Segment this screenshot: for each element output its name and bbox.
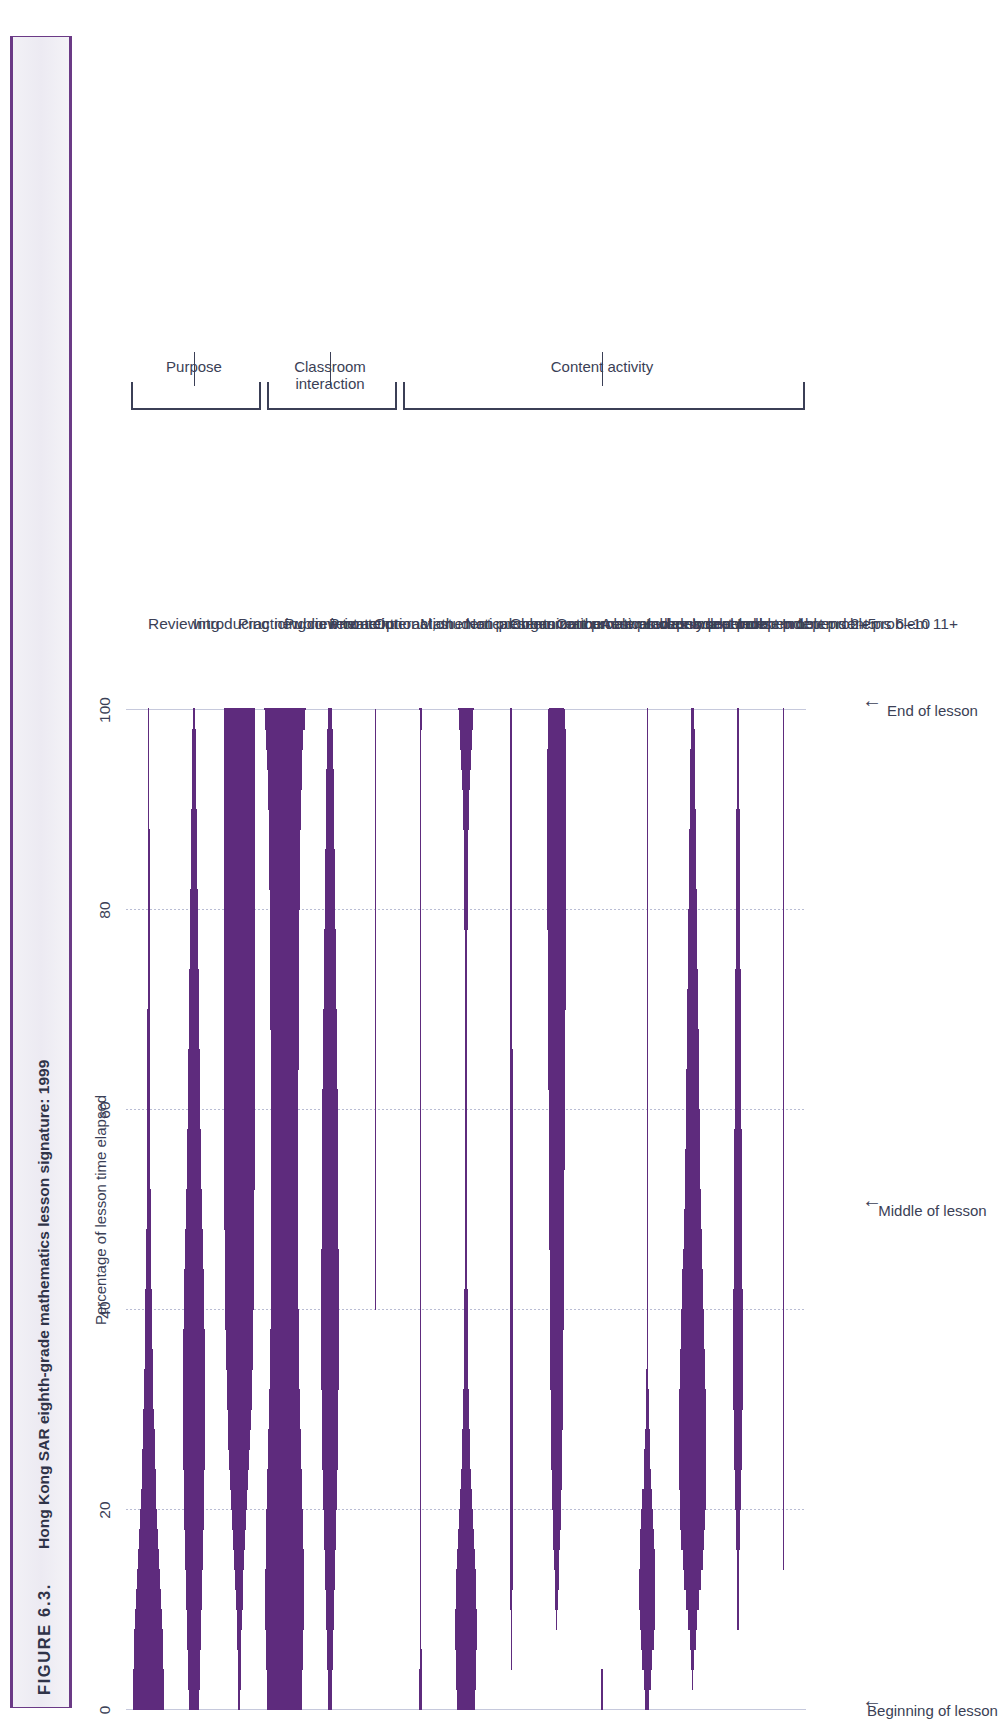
signature-segment: [686, 1109, 700, 1130]
signature-segment: [326, 769, 333, 790]
signature-segment: [187, 1629, 200, 1650]
signature-segment: [224, 789, 256, 810]
signature-segment: [228, 1409, 251, 1430]
signature-segment: [187, 1149, 201, 1170]
signature-segment: [783, 709, 784, 730]
signature-segment: [148, 989, 150, 1010]
signature-segment: [465, 969, 468, 990]
signature-segment: [270, 889, 300, 910]
signature-segment: [375, 849, 376, 870]
signature-segment: [224, 1009, 255, 1030]
signature-segment: [510, 929, 512, 950]
signature-segment: [464, 889, 467, 910]
signature-segment: [687, 989, 698, 1010]
signature-segment: [326, 789, 334, 810]
signature-segment: [455, 1609, 476, 1630]
signature-segment: [322, 1409, 338, 1430]
signature-segment: [420, 949, 421, 970]
signature-segment: [464, 849, 468, 870]
signature-segment: [510, 1229, 513, 1250]
signature-segment: [691, 1649, 694, 1670]
signature-segment: [510, 809, 512, 830]
signature-segment: [647, 1149, 648, 1170]
signature-segment: [735, 1009, 741, 1030]
signature-segment: [689, 889, 697, 910]
signature-segment: [647, 1289, 648, 1310]
signature-segment: [269, 849, 300, 870]
chart-panel: Percentage of lesson time elapsed 020406…: [92, 30, 998, 1710]
signature-segment: [737, 1569, 739, 1590]
signature-segment: [145, 1349, 153, 1370]
signature-segment: [184, 1289, 204, 1310]
signature-segment: [510, 1169, 513, 1190]
signature-segment: [375, 989, 376, 1010]
signature-segment: [601, 1669, 602, 1690]
signature-segment: [736, 809, 739, 830]
signature-segment: [224, 989, 255, 1010]
signature-segment: [420, 1509, 421, 1530]
signature-segment: [690, 809, 696, 830]
signature-segment: [644, 1449, 650, 1470]
signature-segment: [148, 949, 150, 970]
signature-segment: [462, 769, 470, 790]
signature-segment: [647, 729, 648, 750]
signature-segment: [783, 1009, 785, 1030]
signature-segment: [463, 809, 469, 830]
signature-segment: [270, 1009, 298, 1030]
signature-row: [762, 710, 804, 1710]
signature-segment: [647, 1209, 648, 1230]
signature-segment: [420, 1089, 421, 1110]
signature-segment: [456, 1569, 476, 1590]
signature-segment: [687, 1009, 698, 1030]
signature-segment: [148, 969, 150, 990]
signature-segment: [510, 909, 512, 930]
signature-segment: [224, 889, 256, 910]
signature-segment: [510, 869, 512, 890]
signature-segment: [549, 1209, 564, 1230]
signature-segment: [322, 1449, 337, 1470]
signature-segment: [375, 889, 376, 910]
signature-segment: [270, 989, 298, 1010]
signature-segment: [224, 1049, 255, 1070]
signature-segment: [322, 1429, 338, 1450]
signature-segment: [684, 1569, 701, 1590]
axis-tick-40: 40: [96, 1301, 114, 1318]
signature-segment: [224, 709, 256, 730]
signature-segment: [510, 1509, 513, 1530]
signature-segment: [323, 1069, 338, 1090]
signature-segment: [736, 909, 740, 930]
signature-segment: [510, 1249, 513, 1270]
signature-segment: [185, 1229, 202, 1250]
signature-segment: [324, 989, 337, 1010]
signature-segment: [735, 1049, 741, 1070]
signature-segment: [783, 1129, 785, 1150]
signature-segment: [783, 849, 784, 870]
signature-segment: [737, 1589, 738, 1610]
signature-segment: [147, 1129, 150, 1150]
signature-segment: [783, 1249, 785, 1270]
signature-segment: [455, 1629, 476, 1650]
signature-segment: [187, 1609, 201, 1630]
signature-segment: [549, 1229, 564, 1250]
signature-segment: [192, 729, 195, 750]
signature-segment: [231, 1489, 247, 1510]
signature-segment: [647, 889, 648, 910]
signature-segment: [148, 929, 150, 950]
signature-segment: [148, 789, 150, 810]
signature-segment: [227, 1369, 252, 1390]
signature-segment: [550, 1309, 564, 1330]
signature-segment: [647, 1109, 648, 1130]
signature-segment: [147, 1149, 151, 1170]
signature-segment: [266, 1629, 304, 1650]
signature-segment: [510, 969, 512, 990]
signature-segment: [680, 1349, 704, 1370]
signature-segment: [510, 769, 512, 790]
signature-segment: [686, 1589, 699, 1610]
signature-segment: [511, 1649, 512, 1670]
signature-segment: [647, 708, 648, 710]
signature-segment: [146, 1249, 151, 1270]
signature-segment: [148, 909, 150, 930]
signature-segment: [146, 1269, 152, 1290]
signature-segment: [733, 1369, 742, 1390]
signature-segment: [647, 909, 648, 930]
